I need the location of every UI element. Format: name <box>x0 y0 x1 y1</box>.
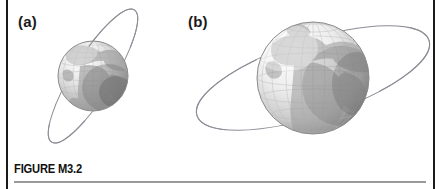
figure-caption: FIGURE M3.2 <box>14 162 429 176</box>
globe-a <box>58 35 134 116</box>
figure-container: (a) (b) <box>0 0 444 189</box>
panel-b-illustration <box>190 0 435 170</box>
left-edge-rule <box>6 0 8 189</box>
panel-a-illustration <box>20 0 180 170</box>
figure-caption-text: FIGURE M3.2 <box>14 162 400 176</box>
caption-underline-rule <box>14 181 426 183</box>
